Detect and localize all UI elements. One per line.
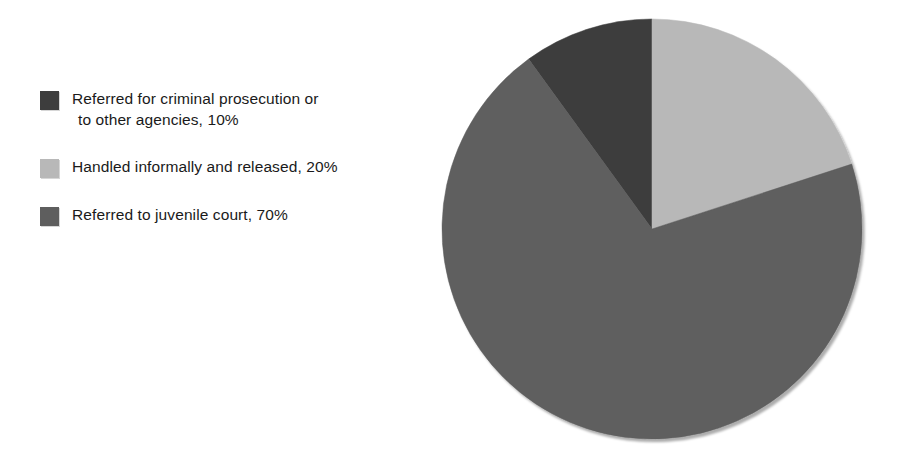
legend-item-criminal-prosecution[interactable]: Referred for criminal prosecution or to … bbox=[40, 88, 440, 130]
legend-label-criminal-prosecution: Referred for criminal prosecution or to … bbox=[72, 88, 440, 130]
legend-swatch-criminal-prosecution bbox=[40, 91, 59, 110]
legend-swatch-juvenile-court bbox=[40, 207, 59, 226]
pie-slices-group bbox=[442, 19, 862, 439]
legend-label-handled-informally: Handled informally and released, 20% bbox=[72, 156, 440, 177]
legend-swatch-handled-informally bbox=[40, 159, 59, 178]
chart-legend: Referred for criminal prosecution or to … bbox=[40, 88, 440, 226]
pie-chart-area bbox=[430, 0, 890, 462]
legend-item-juvenile-court[interactable]: Referred to juvenile court, 70% bbox=[40, 204, 440, 226]
legend-item-handled-informally[interactable]: Handled informally and released, 20% bbox=[40, 156, 440, 178]
pie-chart-figure: Referred for criminal prosecution or to … bbox=[0, 0, 903, 462]
pie-chart-svg bbox=[430, 0, 890, 462]
legend-label-juvenile-court: Referred to juvenile court, 70% bbox=[72, 204, 440, 225]
